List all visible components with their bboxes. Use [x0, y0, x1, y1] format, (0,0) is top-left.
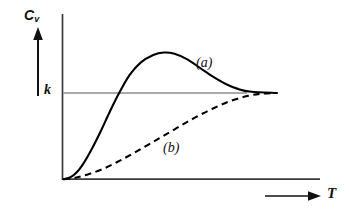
curve-b-dashed — [64, 93, 278, 179]
y-axis-label-subscript: v — [34, 14, 39, 24]
y-axis-label: Cv — [24, 8, 39, 24]
k-reference-label: k — [44, 83, 51, 97]
curve-a-label: (a) — [196, 56, 212, 70]
curve-a-solid — [64, 52, 278, 179]
heat-capacity-figure: Cv k T (a) (b) — [0, 0, 349, 220]
x-axis-label: T — [327, 186, 336, 201]
y-axis-label-symbol: C — [24, 7, 34, 23]
curve-b-label: (b) — [163, 141, 179, 155]
x-axis-arrow-icon — [265, 191, 321, 201]
y-axis-arrow-icon — [33, 27, 43, 96]
chart-canvas — [0, 0, 349, 220]
